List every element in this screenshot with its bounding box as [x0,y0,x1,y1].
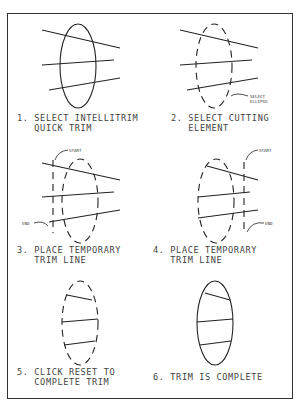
ellipse-dashed [196,24,232,108]
callout-start: START [69,148,82,153]
leader-end [247,223,264,232]
panel-5-drawing [62,281,98,365]
caption-line-1: TRIM IS COMPLETE [170,372,262,382]
panel-4-drawing [198,150,264,243]
ellipse-dashed [62,281,98,365]
line-top [42,163,120,180]
callout-start: START [259,148,272,153]
line-bottom [49,210,120,222]
caption-line-1: PLACE TEMPORARY [170,245,257,255]
line-middle [180,60,252,65]
caption-step-2: 2. SELECT CUTTING ELEMENT [171,113,269,133]
line-bottom [198,210,258,218]
callout-line-2: ELLIPSE [250,99,268,104]
line-bottom [49,78,120,90]
ellipse-solid [197,281,233,365]
segment-bottom [64,341,95,345]
callout-select-ellipse: SELECT ELLIPSE [250,94,268,104]
segment-top [67,295,92,300]
line-top [207,166,258,180]
caption-line-2: TRIM LINE [34,255,86,265]
panel-6-drawing [197,281,233,365]
panel-3-drawing [34,150,120,243]
segment-bottom [200,341,231,345]
leader-start [246,150,258,160]
line-bottom [187,78,258,90]
segment-middle [62,319,98,322]
caption-line-1: SELECT INTELLITRIM [34,113,138,123]
step-number: 4. [153,245,165,255]
caption-line-1: CLICK RESET TO [34,367,115,377]
line-top [42,30,120,48]
leader-start [55,150,68,160]
caption-step-3: 3. PLACE TEMPORARY TRIM LINE [17,245,121,265]
diagram-drawings [0,0,303,404]
caption-step-5: 5. CLICK RESET TO COMPLETE TRIM [17,367,115,387]
leader-select-ellipse [231,94,248,96]
line-middle [198,192,250,197]
caption-line-1: PLACE TEMPORARY [34,245,121,255]
segment-middle [197,319,233,322]
step-number: 5. [17,367,29,377]
ellipse-solid [60,24,96,108]
caption-step-4: 4. PLACE TEMPORARY TRIM LINE [153,245,257,265]
caption-line-2: TRIM LINE [170,255,222,265]
caption-step-1: 1. SELECT INTELLITRIM QUICK TRIM [17,113,138,133]
callout-end: END [265,221,273,226]
callout-end: END [22,221,30,226]
step-number: 1. [17,113,29,123]
leader-end [34,222,48,226]
step-number: 6. [153,372,165,382]
caption-line-2: ELEMENT [188,123,228,133]
panel-1-drawing [42,24,120,108]
caption-line-2: COMPLETE TRIM [34,377,109,387]
segment-top [205,293,230,300]
caption-step-6: 6. TRIM IS COMPLETE [153,372,263,382]
caption-line-1: SELECT CUTTING [188,113,269,123]
line-top [180,30,258,48]
step-number: 2. [171,113,183,123]
panel-2-drawing [180,24,258,108]
caption-line-2: QUICK TRIM [34,123,92,133]
step-number: 3. [17,245,29,255]
line-middle [42,60,114,65]
